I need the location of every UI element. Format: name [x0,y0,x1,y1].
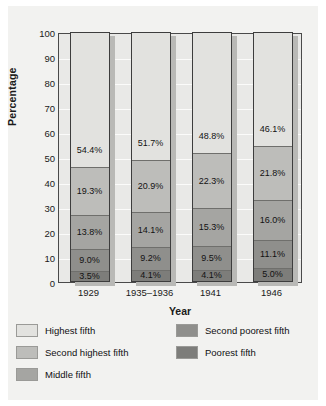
bar-segment[interactable]: 5.0% [254,269,292,281]
bar-segment[interactable]: 9.2% [132,248,170,271]
bar-segment-label: 13.8% [77,228,103,237]
y-axis-tick-labels: 1009080706050403020100 [22,33,55,283]
bar-segment[interactable]: 11.1% [254,241,292,269]
y-axis-tick-label: 70 [44,103,55,114]
bar-segment[interactable]: 46.1% [254,33,292,147]
bar-segment-label: 46.1% [260,125,286,134]
bar-segment[interactable]: 20.9% [132,161,170,213]
bar-segment-label: 21.8% [260,169,286,178]
legend-label: Second poorest fifth [205,325,290,336]
legend-label: Second highest fifth [45,347,128,358]
bar-segment[interactable]: 9.5% [193,247,231,271]
x-axis-title: Year [58,305,302,317]
bar-segment-label: 11.1% [260,250,285,259]
bar-1941[interactable]: 4.1%9.5%15.3%22.3%48.8% [192,32,232,282]
legend-label: Middle fifth [45,369,91,380]
bar-segment[interactable]: 15.3% [193,209,231,247]
bar-1946[interactable]: 5.0%11.1%16.0%21.8%46.1% [253,32,293,282]
legend-label: Poorest fifth [205,347,256,358]
bar-segment-label: 19.3% [77,187,103,196]
bar-segment-label: 22.3% [199,177,225,186]
legend-swatch-icon [16,346,38,359]
y-axis-tick-label: 0 [50,278,55,289]
legend-item[interactable]: Middle fifth [16,368,176,381]
bar-segment[interactable]: 54.4% [71,33,109,168]
legend-swatch-icon [176,324,198,337]
legend-swatch-icon [16,368,38,381]
x-axis-tick-label: 1946 [261,287,282,298]
legend-item[interactable]: Second highest fifth [16,346,176,359]
bar-segment-label: 9.2% [140,254,161,263]
bar-segment-label: 9.0% [79,256,100,265]
bar-segment[interactable]: 48.8% [193,33,231,154]
bar-segment-label: 4.1% [140,271,161,280]
bar-segment[interactable]: 4.1% [132,271,170,281]
bar-group: 3.5%9.0%13.8%19.3%54.4%4.1%9.2%14.1%20.9… [59,34,301,282]
bar-segment[interactable]: 14.1% [132,213,170,248]
bar-segment[interactable]: 22.3% [193,154,231,209]
bar-body: 3.5%9.0%13.8%19.3%54.4% [70,32,110,282]
x-axis-tick-label: 1941 [200,287,221,298]
y-axis-tick-label: 40 [44,178,55,189]
plot-area: 3.5%9.0%13.8%19.3%54.4%4.1%9.2%14.1%20.9… [58,33,302,283]
bar-segment[interactable]: 51.7% [132,33,170,161]
bar-segment-label: 20.9% [138,182,164,191]
bar-1929[interactable]: 3.5%9.0%13.8%19.3%54.4% [70,32,110,282]
legend-column-right: Second poorest fifthPoorest fifth [176,324,310,381]
bar-segment-label: 16.0% [260,216,286,225]
bar-1935-1936[interactable]: 4.1%9.2%14.1%20.9%51.7% [131,32,171,282]
legend-label: Highest fifth [45,325,95,336]
bar-segment-label: 3.5% [79,272,100,281]
y-axis-tick-label: 30 [44,203,55,214]
bar-segment-label: 54.4% [77,146,103,155]
bar-segment-label: 9.5% [201,254,222,263]
legend-swatch-icon [16,324,38,337]
bar-body: 4.1%9.5%15.3%22.3%48.8% [192,32,232,282]
legend-item[interactable]: Poorest fifth [176,346,310,359]
y-axis-tick-label: 90 [44,53,55,64]
bar-segment-label: 4.1% [201,271,222,280]
bar-segment-label: 15.3% [199,223,225,232]
y-axis-tick-label: 10 [44,253,55,264]
y-axis-tick-label: 50 [44,153,55,164]
bar-segment[interactable]: 4.1% [193,271,231,281]
x-axis-tick-label: 1935–1936 [126,287,174,298]
x-axis-tick-label: 1929 [78,287,99,298]
bar-body: 4.1%9.2%14.1%20.9%51.7% [131,32,171,282]
bar-segment[interactable]: 13.8% [71,216,109,250]
x-axis-tick-labels: 19291935–193619411946 [58,287,302,303]
bar-segment-label: 51.7% [138,139,164,148]
legend-item[interactable]: Second poorest fifth [176,324,310,337]
y-axis-tick-label: 20 [44,228,55,239]
bar-segment[interactable]: 21.8% [254,147,292,201]
bar-segment-label: 14.1% [138,226,164,235]
y-axis-title: Percentage [6,67,18,126]
legend-item[interactable]: Highest fifth [16,324,176,337]
y-axis-tick-label: 100 [39,28,55,39]
chart-figure: Percentage 1009080706050403020100 3.5%9.… [8,6,318,400]
y-axis-tick-label: 80 [44,78,55,89]
bar-segment-label: 5.0% [262,270,283,279]
legend-swatch-icon [176,346,198,359]
bar-segment[interactable]: 9.0% [71,250,109,272]
bar-segment[interactable]: 19.3% [71,168,109,216]
bar-body: 5.0%11.1%16.0%21.8%46.1% [253,32,293,282]
bar-segment-label: 48.8% [199,132,225,141]
legend-column-left: Highest fifthSecond highest fifthMiddle … [16,324,176,381]
bar-segment[interactable]: 16.0% [254,201,292,241]
y-axis-tick-label: 60 [44,128,55,139]
bar-segment[interactable]: 3.5% [71,272,109,281]
chart-legend: Highest fifthSecond highest fifthMiddle … [16,324,310,381]
